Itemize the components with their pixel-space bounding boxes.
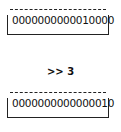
left-border [7, 15, 8, 35]
shift-operation-label: >> 3 [0, 66, 121, 77]
output-value: 0000000000000010 [12, 97, 114, 109]
input-register: 0000000000010000 [7, 9, 109, 35]
output-register: 0000000000000010 [7, 92, 109, 118]
bottom-border [7, 34, 109, 35]
bottom-border [7, 117, 109, 118]
dashed-top-border [10, 92, 106, 93]
left-border [7, 98, 8, 118]
input-value: 0000000000010000 [12, 14, 114, 26]
dashed-top-border [10, 9, 106, 10]
